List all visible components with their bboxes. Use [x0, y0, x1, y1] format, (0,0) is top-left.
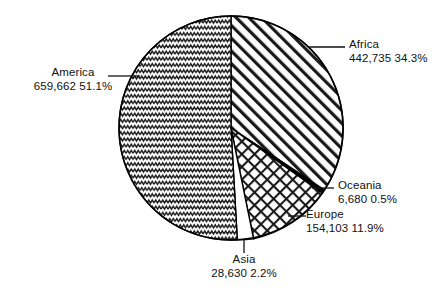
slice-label-asia: Asia 28,630 2.2% [184, 253, 304, 280]
slice-label-oceania-name: Oceania [338, 179, 397, 193]
slice-label-africa-name: Africa [349, 38, 428, 52]
slice-label-oceania-value: 6,680 0.5% [338, 193, 397, 207]
slice-label-africa: Africa 442,735 34.3% [349, 38, 428, 65]
slice-label-america: America 659,662 51.1% [8, 66, 138, 93]
slice-label-europe-value: 154,103 11.9% [306, 222, 384, 236]
slice-label-oceania: Oceania 6,680 0.5% [338, 179, 397, 206]
slice-label-asia-value: 28,630 2.2% [184, 267, 304, 281]
slice-label-europe-name: Europe [306, 208, 384, 222]
slice-label-africa-value: 442,735 34.3% [349, 52, 428, 66]
slice-label-america-name: America [8, 66, 138, 80]
slice-label-america-value: 659,662 51.1% [8, 80, 138, 94]
pie-slice-america-fill [119, 16, 237, 240]
slice-label-europe: Europe 154,103 11.9% [306, 208, 384, 235]
pie-slice-america[interactable] [119, 16, 237, 240]
pie-chart: Africa 442,735 34.3% America 659,662 51.… [0, 0, 439, 292]
slice-label-asia-name: Asia [184, 253, 304, 267]
